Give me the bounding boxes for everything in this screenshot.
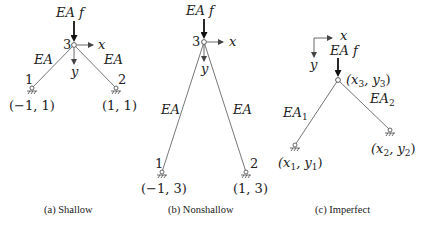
free-node-icon — [72, 43, 77, 48]
free-node-icon — [336, 78, 341, 83]
node-2-coord: (1, 3) — [233, 181, 268, 196]
load-label: EA f — [185, 3, 216, 18]
bar-right-label: EA — [232, 102, 252, 117]
y-axis-label: y — [200, 61, 209, 76]
pin-support-icon — [157, 170, 167, 178]
pin-support-icon — [290, 143, 300, 151]
panel-b-nonshallow: EA f 3 x y EA EA 1 2 (−1, 3) (1, 3) (b) … — [141, 3, 268, 216]
node-1-coord: (−1, 1) — [9, 98, 55, 113]
pin-support-icon — [27, 86, 37, 94]
node-2-label: 2 — [118, 72, 126, 87]
bar-right-label: EA — [103, 52, 123, 67]
free-node-icon — [202, 40, 207, 45]
panel-c-imperfect: x y EA f (x3, y3) EA1 EA2 (x1, y1) (x — [278, 28, 416, 216]
x-axis-label: x — [229, 34, 237, 49]
free-node-label: 3 — [192, 34, 200, 49]
y-axis-label: y — [309, 57, 318, 72]
truss-figure: EA f 3 x y EA EA 1 2 (−1, 1) (1, 1 — [0, 0, 421, 225]
node-2-coord: (1, 1) — [102, 98, 137, 113]
x-axis-label: x — [340, 28, 348, 43]
bar-left-label: EA — [160, 102, 180, 117]
pin-support-icon — [385, 128, 395, 136]
node-1-label: 1 — [25, 72, 33, 87]
free-node-coord: (x3, y3) — [346, 72, 391, 89]
caption-shallow: (a) Shallow — [44, 204, 93, 216]
load-label: EA f — [329, 43, 360, 58]
caption-nonshallow: (b) Nonshallow — [168, 204, 234, 216]
panel-a-shallow: EA f 3 x y EA EA 1 2 (−1, 1) (1, 1 — [9, 5, 137, 216]
node-1-coord: (x1, y1) — [278, 155, 323, 172]
node-2-coord: (x2, y2) — [371, 141, 416, 158]
bar-left-label: EA — [33, 52, 53, 67]
y-axis-label: y — [70, 64, 79, 79]
pin-support-icon — [241, 170, 251, 178]
node-1-label: 1 — [155, 156, 163, 171]
x-axis-label: x — [98, 37, 106, 52]
load-label: EA f — [55, 5, 86, 20]
bar-right-label: EA2 — [369, 91, 395, 108]
free-node-label: 3 — [63, 37, 71, 52]
caption-imperfect: (c) Imperfect — [315, 204, 370, 216]
node-1-coord: (−1, 3) — [141, 181, 187, 196]
bar-left-label: EA1 — [282, 105, 308, 122]
node-2-label: 2 — [250, 156, 258, 171]
pin-support-icon — [111, 86, 121, 94]
